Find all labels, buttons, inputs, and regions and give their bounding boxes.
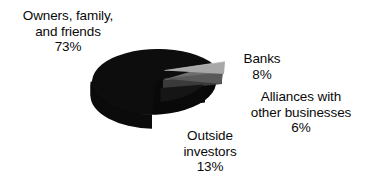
slice-label-outside-value: 13% (160, 159, 260, 175)
slice-label-owners-line1: Owners, family, (2, 8, 134, 24)
slice-label-alliances-line1: Alliances with (239, 89, 363, 105)
slice-label-banks: Banks 8% (222, 51, 302, 82)
slice-label-outside: Outside investors 13% (160, 128, 260, 175)
slice-label-owners: Owners, family, and friends 73% (2, 8, 134, 55)
slice-label-outside-line1: Outside (160, 128, 260, 144)
slice-label-owners-line2: and friends (2, 24, 134, 40)
slice-label-owners-value: 73% (2, 39, 134, 55)
slice-label-alliances-line2: other businesses (239, 105, 363, 121)
pie-chart-figure: Owners, family, and friends 73% Banks 8%… (0, 0, 366, 182)
slice-label-banks-value: 8% (222, 67, 302, 83)
slice-label-outside-line2: investors (160, 144, 260, 160)
slice-label-banks-line1: Banks (222, 51, 302, 67)
